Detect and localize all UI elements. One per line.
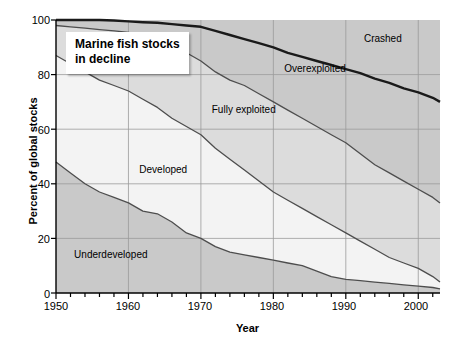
chart-title-box: Marine fish stocks in decline [66,32,189,74]
band-label-crashed: Crashed [364,33,402,44]
band-label-underdeveloped: Underdeveloped [74,249,147,260]
band-label-developed: Developed [139,164,187,175]
band-label-fully-exploited: Fully exploited [212,104,276,115]
chart-figure: Percent of global stocks Year 0 20 40 60… [0,0,451,343]
band-label-overexploited: Overexploited [284,63,346,74]
chart-title-line-1: Marine fish stocks [75,37,180,52]
chart-title-line-2: in decline [75,52,180,67]
